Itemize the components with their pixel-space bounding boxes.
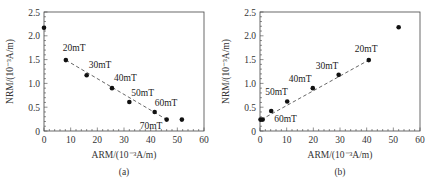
data-point — [269, 109, 274, 114]
panel-caption: (a) — [119, 167, 130, 178]
x-tick-label: 60 — [199, 135, 209, 145]
x-tick-label: 40 — [146, 135, 156, 145]
data-point — [260, 117, 265, 122]
data-point — [180, 117, 185, 122]
y-tick-label: 0 — [251, 127, 256, 137]
x-tick-label: 0 — [258, 135, 263, 145]
y-tick-label: 0 — [35, 127, 40, 137]
data-point — [164, 117, 169, 122]
x-axis-title: ARM/(10⁻³A/m) — [92, 150, 157, 161]
point-annotation: 50mT — [265, 87, 288, 97]
data-point — [127, 100, 132, 105]
x-tick-label: 20 — [309, 135, 319, 145]
y-tick-label: 1.5 — [244, 55, 256, 65]
data-point — [42, 25, 47, 30]
data-point — [311, 86, 316, 91]
plot-frame — [44, 12, 204, 131]
y-tick-label: 0.5 — [244, 103, 256, 113]
point-annotation: 60mT — [155, 98, 178, 108]
x-tick-label: 30 — [119, 135, 129, 145]
point-annotation: 20mT — [355, 44, 378, 54]
x-tick-label: 60 — [415, 135, 425, 145]
y-tick-label: 2.5 — [28, 8, 40, 18]
y-tick-label: 1.5 — [28, 55, 40, 65]
x-tick-label: 40 — [362, 135, 372, 145]
y-axis-title: NRM/(10⁻³A/m) — [5, 39, 16, 104]
y-tick-label: 2.0 — [244, 31, 256, 41]
x-tick-label: 10 — [282, 135, 292, 145]
y-tick-label: 2.0 — [28, 31, 40, 41]
data-point — [110, 86, 115, 91]
y-tick-label: 1.0 — [28, 79, 40, 89]
chart-panel-a: 010203040506000.51.01.52.02.5ARM/(10⁻³A/… — [5, 8, 209, 179]
point-annotation: 30mT — [316, 61, 339, 71]
x-tick-label: 20 — [93, 135, 103, 145]
y-tick-label: 1.0 — [244, 79, 256, 89]
data-point — [285, 99, 290, 104]
x-axis-title: ARM/(10⁻³A/m) — [308, 150, 373, 161]
y-tick-label: 2.5 — [244, 8, 256, 18]
y-axis-title: NRM/(10⁻³A/m) — [221, 39, 232, 104]
point-annotation: 40mT — [289, 74, 312, 84]
point-annotation: 50mT — [131, 88, 154, 98]
data-point — [64, 58, 69, 63]
data-point — [84, 73, 89, 78]
x-tick-label: 10 — [66, 135, 76, 145]
point-annotation: 60mT — [274, 114, 297, 124]
point-annotation: 70mT — [140, 121, 163, 131]
x-tick-label: 0 — [42, 135, 47, 145]
data-point — [396, 25, 401, 30]
point-annotation: 30mT — [89, 60, 112, 70]
data-point — [367, 58, 372, 63]
x-tick-label: 50 — [173, 135, 183, 145]
x-tick-label: 50 — [389, 135, 399, 145]
chart-panel-b: 010203040506000.51.01.52.02.5ARM/(10⁻³A/… — [221, 8, 425, 179]
data-point — [336, 73, 341, 78]
chart-figure: 010203040506000.51.01.52.02.5ARM/(10⁻³A/… — [0, 0, 434, 186]
point-annotation: 40mT — [114, 73, 137, 83]
panel-caption: (b) — [334, 167, 345, 178]
y-tick-label: 0.5 — [28, 103, 40, 113]
data-point — [152, 110, 157, 115]
x-tick-label: 30 — [335, 135, 345, 145]
point-annotation: 20mT — [63, 43, 86, 53]
